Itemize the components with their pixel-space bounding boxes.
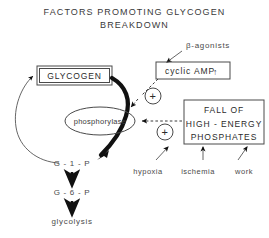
node-cyclic-amp: cyclic AMP	[165, 66, 215, 76]
diagram-canvas: FACTORS PROMOTING GLYCOGEN BREAKDOWN β-a…	[0, 0, 269, 238]
arrow-beta-to-camp	[167, 51, 182, 62]
fall-of-line1: FALL OF	[204, 105, 244, 115]
page-title-line2: BREAKDOWN	[100, 20, 169, 30]
node-glycogen: GLYCOGEN	[47, 71, 102, 81]
node-ischemia: ischemia	[181, 167, 215, 176]
cyclic-amp-up-arrow: ↑	[213, 67, 218, 77]
arrow-work-to-fall	[238, 147, 247, 160]
node-g6p: G - 6 - P	[54, 188, 91, 197]
page-title-line1: FACTORS PROMOTING GLYCOGEN	[44, 7, 226, 17]
glycogen-breakdown-diagram: FACTORS PROMOTING GLYCOGEN BREAKDOWN β-a…	[0, 0, 269, 238]
plus-symbol-upper: +	[149, 90, 156, 102]
node-beta-agonists: β-agonists	[186, 41, 230, 50]
thin-arrow-g1p-to-glycogen	[15, 76, 59, 163]
node-g1p: G - 1 - P	[54, 159, 91, 168]
node-phosphorylase: phosphorylase	[74, 117, 127, 126]
plus-symbol-lower: +	[161, 126, 168, 138]
fall-of-line2: HIGH - ENERGY	[186, 119, 262, 129]
arrow-hypoxia-to-fall	[156, 147, 168, 160]
node-hypoxia: hypoxia	[133, 167, 163, 176]
node-work: work	[234, 167, 253, 176]
fall-of-line3: PHOSPHATES	[191, 132, 257, 142]
node-glycolysis: glycolysis	[51, 217, 92, 226]
dashed-plus-upper-to-phosphorylase	[131, 99, 138, 107]
